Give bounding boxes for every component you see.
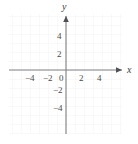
x-tick-label-4: 4: [97, 74, 102, 83]
x-axis-label: x: [127, 65, 131, 75]
x-tick-label-neg4: −4: [25, 74, 35, 83]
y-tick-label-neg2: −2: [53, 86, 63, 95]
y-tick-label-2: 2: [57, 50, 62, 59]
x-tick-label-2: 2: [79, 74, 84, 83]
origin-label: 0: [59, 74, 64, 83]
x-tick-label-neg2: −2: [43, 74, 53, 83]
coordinate-plane-figure: −4 −2 0 2 4 4 2 −2 −4 y x: [0, 0, 138, 144]
coordinate-grid-svg: [0, 0, 138, 144]
y-axis-label: y: [62, 2, 66, 12]
y-tick-label-4: 4: [57, 32, 62, 41]
y-tick-label-neg4: −4: [53, 104, 63, 113]
